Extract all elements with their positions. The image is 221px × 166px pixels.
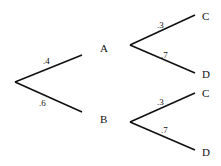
prob-label-A-D: .7 [161, 50, 168, 60]
node-A-C: C [202, 10, 209, 22]
edge-root-B [15, 82, 82, 112]
prob-label-root-B: .6 [39, 98, 46, 108]
prob-label-B-D: .7 [161, 125, 168, 135]
tree-edges [15, 15, 195, 150]
node-B-D: D [202, 146, 210, 158]
prob-label-root-A: .4 [43, 56, 50, 66]
prob-label-A-C: .3 [157, 20, 164, 30]
node-B: B [100, 113, 107, 125]
prob-label-B-C: .3 [157, 97, 164, 107]
probability-tree: .4 .6 A B .3 .7 .3 .7 C D C D [0, 0, 221, 166]
node-A-D: D [202, 68, 210, 80]
node-A: A [100, 42, 108, 54]
node-B-C: C [202, 87, 209, 99]
